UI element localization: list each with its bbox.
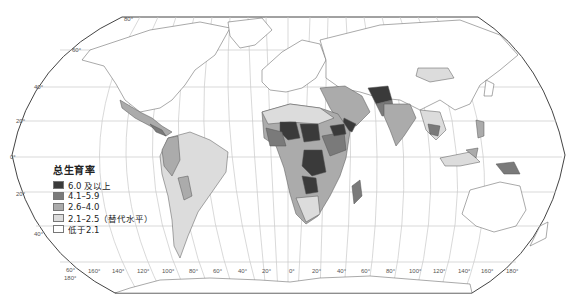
world-map: 80° 60° 40° 20° 0° 20° 40° 60° 180° 160°… <box>0 0 574 304</box>
svg-text:40°: 40° <box>238 268 248 274</box>
legend-item: 低于2.1 <box>53 223 153 234</box>
svg-text:0°: 0° <box>10 154 16 160</box>
svg-text:20°: 20° <box>16 118 26 124</box>
svg-text:60°: 60° <box>361 268 371 274</box>
svg-text:60°: 60° <box>72 47 82 53</box>
svg-text:80°: 80° <box>386 268 396 274</box>
svg-text:180°: 180° <box>64 275 77 281</box>
legend-title: 总生育率 <box>53 162 153 177</box>
svg-text:100°: 100° <box>409 268 422 274</box>
svg-text:160°: 160° <box>481 268 494 274</box>
svg-text:140°: 140° <box>112 268 125 274</box>
svg-text:0°: 0° <box>289 268 295 274</box>
svg-text:140°: 140° <box>458 268 471 274</box>
legend-swatch-below-2.1 <box>53 225 64 233</box>
svg-text:20°: 20° <box>16 191 26 197</box>
svg-text:80°: 80° <box>189 268 199 274</box>
svg-text:80°: 80° <box>124 16 134 22</box>
svg-text:20°: 20° <box>262 268 272 274</box>
svg-text:40°: 40° <box>34 84 44 90</box>
svg-text:160°: 160° <box>88 268 101 274</box>
legend-item: 4.1–5.9 <box>53 190 153 201</box>
legend: 总生育率 6.0 及以上 4.1–5.9 2.6–4.0 2.1–2.5（替代水… <box>53 162 153 234</box>
legend-swatch-4-6 <box>53 192 64 200</box>
legend-swatch-6plus <box>53 181 64 189</box>
svg-text:180°: 180° <box>506 268 519 274</box>
legend-label: 2.6–4.0 <box>68 202 99 212</box>
legend-label: 4.1–5.9 <box>68 191 99 201</box>
legend-swatch-2.6-4 <box>53 203 64 211</box>
svg-text:60°: 60° <box>66 267 76 273</box>
svg-text:40°: 40° <box>337 268 347 274</box>
legend-label: 低于2.1 <box>68 223 100 235</box>
svg-text:100°: 100° <box>162 268 175 274</box>
svg-text:20°: 20° <box>312 268 322 274</box>
svg-text:40°: 40° <box>34 231 44 237</box>
legend-label: 6.0 及以上 <box>68 179 111 191</box>
svg-text:60°: 60° <box>213 268 223 274</box>
legend-item: 2.6–4.0 <box>53 201 153 212</box>
svg-text:120°: 120° <box>137 268 150 274</box>
legend-item: 2.1–2.5（替代水平） <box>53 212 153 223</box>
legend-item: 6.0 及以上 <box>53 179 153 190</box>
legend-swatch-replacement <box>53 214 64 222</box>
svg-text:120°: 120° <box>433 268 446 274</box>
